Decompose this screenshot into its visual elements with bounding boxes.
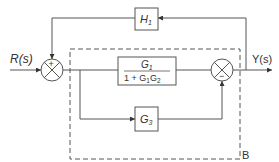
output-label: Y(s): [252, 53, 272, 65]
summing-junction-2: −: [211, 59, 233, 81]
sum1-plus-sign: +: [49, 59, 54, 69]
summing-junction-1: +: [41, 59, 63, 81]
sum2-minus-sign: −: [219, 71, 224, 81]
svg-text:1 + G1G2: 1 + G1G2: [124, 73, 161, 84]
parallel-line-right: [158, 81, 222, 119]
block-g3: G3: [135, 107, 158, 131]
block-main-transfer: G1 1 + G1G2: [118, 57, 176, 85]
region-b-label: B: [242, 149, 249, 161]
block-h1: H1: [135, 8, 158, 30]
input-label: R(s): [10, 52, 33, 66]
feedback-line-left: [52, 18, 135, 59]
block-diagram: B R(s) + G1 1 + G1G2 − Y(s) H1 G3: [0, 0, 279, 162]
